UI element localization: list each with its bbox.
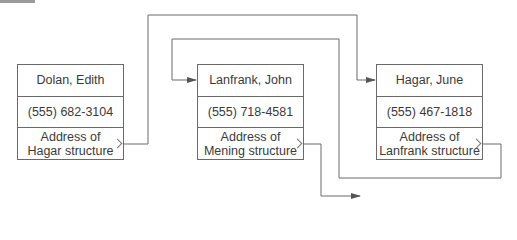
name-field: Hagar, June [377,65,482,97]
phone-text: (555) 718-4581 [208,105,293,119]
phone-field: (555) 467-1818 [377,97,482,129]
phone-text: (555) 682-3104 [28,105,113,119]
name-text: Hagar, June [396,73,463,87]
pointer-text-line2: Hagar structure [27,144,113,158]
phone-text: (555) 467-1818 [387,105,472,119]
record-lanfrank: Lanfrank, John (555) 718-4581 Address of… [197,64,304,160]
name-field: Lanfrank, John [198,65,303,97]
record-dolan: Dolan, Edith (555) 682-3104 Address of H… [17,64,124,160]
name-field: Dolan, Edith [18,65,123,97]
name-text: Lanfrank, John [209,73,292,87]
phone-field: (555) 682-3104 [18,97,123,129]
phone-field: (555) 718-4581 [198,97,303,129]
pointer-text-line1: Address of [27,130,113,144]
pointer-field: Address of Mening structure [198,128,303,159]
pointer-text-line1: Address of [379,130,480,144]
pointer-chevron-icon [113,139,123,149]
pointer-text-line2: Lanfrank structure [379,144,480,158]
pointer-field: Address of Hagar structure [18,128,123,159]
name-text: Dolan, Edith [36,73,104,87]
record-hagar: Hagar, June (555) 467-1818 Address of La… [376,64,483,160]
link-lanfrank-to-mening [304,144,360,196]
pointer-text-line2: Mening structure [204,144,297,158]
pointer-field: Address of Lanfrank structure [377,128,482,159]
pointer-text-line1: Address of [204,130,297,144]
